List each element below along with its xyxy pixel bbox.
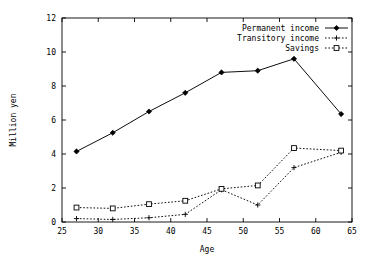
y-axis-title: Million yen [9, 93, 18, 146]
series-marker-2 [219, 186, 224, 191]
x-tick-label: 50 [238, 227, 248, 236]
x-tick-label: 40 [166, 227, 176, 236]
y-tick-label: 0 [51, 218, 56, 227]
series-marker-2 [110, 206, 115, 211]
x-tick-label: 60 [311, 227, 321, 236]
y-tick-label: 12 [46, 14, 56, 23]
x-tick-label: 65 [347, 227, 357, 236]
series-marker-0 [74, 149, 79, 154]
legend-sample-marker-0 [334, 25, 339, 30]
series-marker-0 [183, 90, 188, 95]
legend-label-0: Permanent income [242, 24, 319, 33]
x-axis-title: Age [200, 245, 215, 254]
series-line-0 [77, 59, 342, 152]
series-marker-2 [292, 146, 297, 151]
series-line-1 [77, 152, 342, 219]
x-tick-label: 25 [57, 227, 67, 236]
series-marker-2 [255, 183, 260, 188]
chart-container: 253035404550556065024681012AgeMillion ye… [0, 0, 373, 267]
y-tick-label: 8 [51, 82, 56, 91]
y-tick-label: 10 [46, 48, 56, 57]
legend-sample-marker-2 [334, 46, 339, 51]
x-tick-label: 45 [202, 227, 212, 236]
series-marker-2 [74, 205, 79, 210]
series-marker-2 [183, 198, 188, 203]
x-tick-label: 55 [275, 227, 285, 236]
series-marker-0 [110, 130, 115, 135]
x-tick-label: 35 [130, 227, 140, 236]
series-marker-0 [219, 70, 224, 75]
line-chart: 253035404550556065024681012AgeMillion ye… [0, 0, 373, 267]
y-tick-label: 6 [51, 116, 56, 125]
y-tick-label: 4 [51, 150, 56, 159]
series-marker-2 [147, 202, 152, 207]
y-tick-label: 2 [51, 184, 56, 193]
x-tick-label: 30 [93, 227, 103, 236]
series-marker-0 [255, 68, 260, 73]
series-marker-0 [146, 109, 151, 114]
series-marker-2 [339, 148, 344, 153]
legend-label-1: Transitory income [237, 34, 319, 43]
series-line-2 [77, 148, 342, 208]
legend-label-2: Savings [285, 44, 319, 53]
